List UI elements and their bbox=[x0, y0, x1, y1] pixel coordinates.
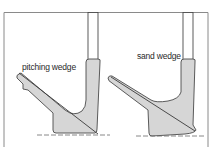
pitching-wedge-label: pitching wedge bbox=[22, 62, 76, 72]
sand-wedge-shaft bbox=[183, 13, 193, 61]
wedge-comparison-diagram bbox=[0, 0, 211, 147]
sand-wedge-head bbox=[108, 59, 196, 136]
pitching-wedge-shaft bbox=[88, 13, 98, 61]
pitching-wedge-drawing bbox=[17, 13, 110, 136]
sand-wedge-drawing bbox=[108, 13, 205, 137]
sand-wedge-label: sand wedge bbox=[137, 51, 181, 61]
